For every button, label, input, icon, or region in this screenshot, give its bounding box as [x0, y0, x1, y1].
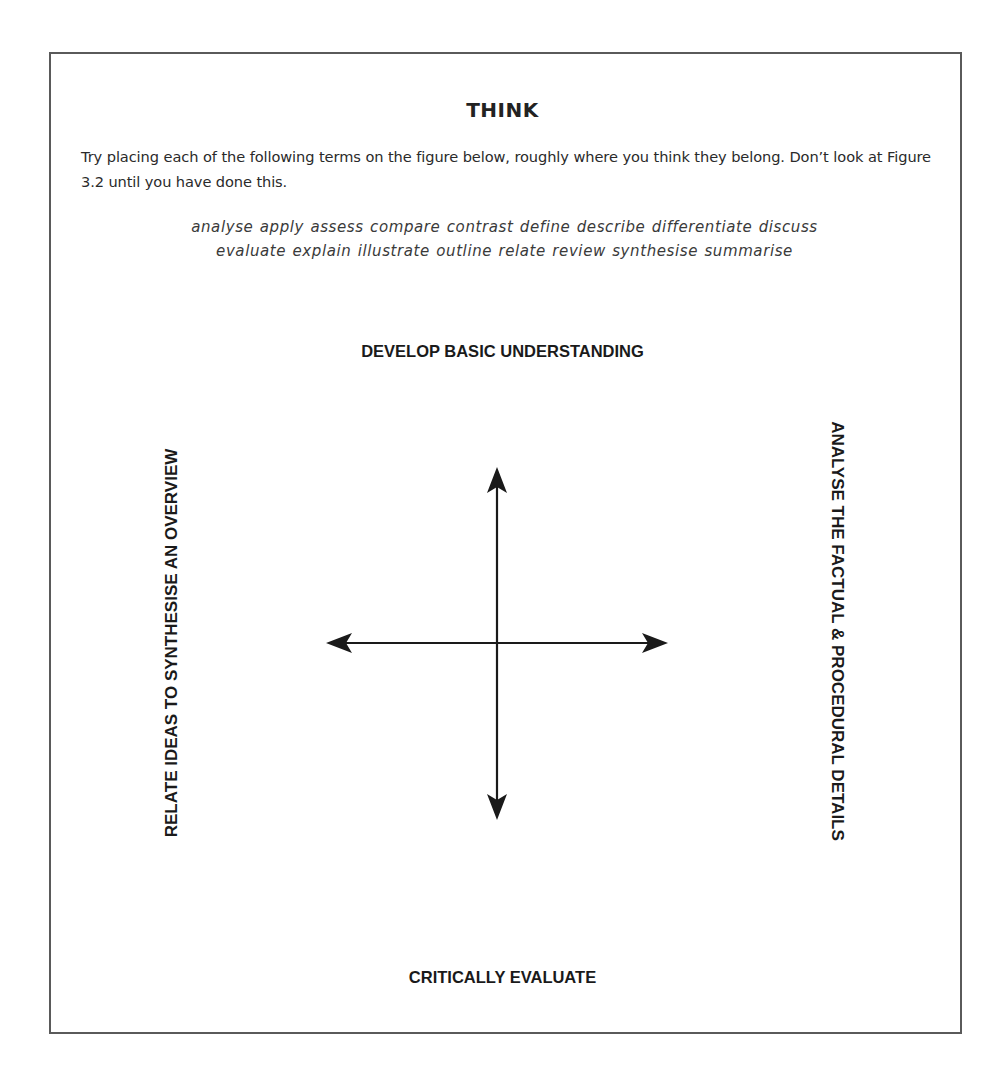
terms-line-1: analyse apply assess compare contrast de… — [60, 215, 949, 239]
think-panel-border — [49, 52, 962, 1034]
axis-label-bottom: CRITICALLY EVALUATE — [0, 967, 1005, 987]
axis-label-top: DEVELOP BASIC UNDERSTANDING — [0, 341, 1005, 361]
terms-line-2: evaluate explain illustrate outline rela… — [60, 239, 949, 263]
terms-list: analyse apply assess compare contrast de… — [60, 215, 949, 263]
panel-title: THINK — [0, 97, 1005, 123]
axis-label-right: ANALYSE THE FACTUAL & PROCEDURAL DETAILS — [827, 421, 847, 841]
axis-label-left: RELATE IDEAS TO SYNTHESISE AN OVERVIEW — [162, 449, 182, 838]
instructions-text: Try placing each of the following terms … — [81, 144, 931, 194]
